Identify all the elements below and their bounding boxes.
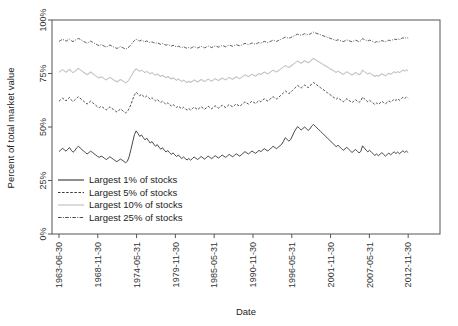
y-tick-label: 25% bbox=[38, 171, 48, 189]
legend-label: Largest 25% of stocks bbox=[89, 212, 183, 223]
x-tick-label: 1968-11-30 bbox=[93, 242, 103, 287]
series-lines bbox=[59, 32, 408, 163]
x-axis-ticks: 1963-06-301968-11-301974-05-311979-11-30… bbox=[54, 234, 413, 288]
y-axis-ticks: 0%25%50%75%100% bbox=[38, 8, 52, 240]
x-tick-label: 1990-11-30 bbox=[248, 242, 258, 287]
legend-label: Largest 5% of stocks bbox=[89, 187, 177, 198]
x-tick-label: 2012-11-30 bbox=[403, 242, 413, 287]
chart-legend: Largest 1% of stocksLargest 5% of stocks… bbox=[58, 174, 183, 223]
series-line bbox=[59, 124, 408, 162]
y-tick-label: 50% bbox=[38, 118, 48, 136]
series-line bbox=[59, 82, 408, 112]
legend-label: Largest 1% of stocks bbox=[89, 174, 177, 185]
x-tick-label: 1963-06-30 bbox=[54, 242, 64, 288]
y-axis-title: Percent of total market value bbox=[5, 68, 16, 189]
x-tick-label: 1996-05-31 bbox=[287, 242, 297, 288]
x-tick-label: 1974-05-31 bbox=[132, 242, 142, 288]
y-tick-label: 75% bbox=[38, 64, 48, 82]
y-tick-label: 100% bbox=[38, 8, 48, 31]
x-tick-label: 2001-11-30 bbox=[326, 242, 336, 287]
y-tick-label: 0% bbox=[38, 227, 48, 240]
x-tick-label: 1985-05-31 bbox=[209, 242, 219, 288]
x-tick-label: 2007-05-31 bbox=[365, 242, 375, 288]
x-tick-label: 1979-11-30 bbox=[171, 242, 181, 287]
series-line bbox=[59, 59, 408, 83]
chart-container: 0%25%50%75%100% 1963-06-301968-11-301974… bbox=[0, 0, 458, 326]
x-axis-title: Date bbox=[236, 306, 256, 317]
legend-label: Largest 10% of stocks bbox=[89, 199, 183, 210]
series-line bbox=[59, 32, 408, 49]
market-concentration-line-chart: 0%25%50%75%100% 1963-06-301968-11-301974… bbox=[0, 0, 458, 326]
